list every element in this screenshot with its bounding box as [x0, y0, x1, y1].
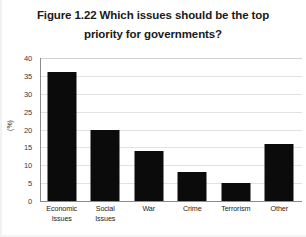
y-axis-tick-labels: 4035302520151050 — [0, 58, 36, 201]
bar-slot — [258, 58, 302, 201]
y-axis-tick-label: 35 — [24, 71, 32, 80]
bar[interactable] — [178, 172, 207, 201]
x-axis-tick-label-line: War — [127, 204, 171, 214]
bar[interactable] — [221, 183, 250, 201]
bar[interactable] — [91, 130, 120, 202]
x-axis-tick-label: Terrorism — [214, 204, 258, 214]
x-axis-tick-labels: EconomicIssuesSocialIssuesWarCrimeTerror… — [40, 204, 301, 234]
bar-slot — [84, 58, 128, 201]
figure-container: Figure 1.22 Which issues should be the t… — [0, 0, 306, 237]
x-axis-tick-label: Other — [258, 204, 302, 214]
x-axis-tick-label-line: Social — [84, 204, 128, 214]
y-axis-tick-label: 40 — [24, 54, 32, 63]
x-axis-tick-label-line: Issues — [40, 214, 84, 224]
x-axis-tick-label-line: Terrorism — [214, 204, 258, 214]
chart-title-line-2: priority for governments? — [0, 25, 306, 44]
y-axis-tick-label: 30 — [24, 89, 32, 98]
y-axis-tick-label: 10 — [24, 161, 32, 170]
x-axis-tick-label: Crime — [171, 204, 215, 214]
x-axis-tick-label: SocialIssues — [84, 204, 128, 223]
x-axis-tick-label-line: Economic — [40, 204, 84, 214]
bar-slot — [40, 58, 84, 201]
y-axis-tick-label: 0 — [28, 197, 32, 206]
x-axis-tick-label-line: Other — [258, 204, 302, 214]
x-axis-tick-label: War — [127, 204, 171, 214]
bar-slot — [127, 58, 171, 201]
x-axis-tick-label-line: Issues — [84, 214, 128, 224]
chart-title-line-1: Figure 1.22 Which issues should be the t… — [0, 6, 306, 25]
bar[interactable] — [134, 151, 163, 201]
bar[interactable] — [47, 72, 76, 201]
x-axis-tick-label: EconomicIssues — [40, 204, 84, 223]
y-axis-tick-label: 5 — [28, 179, 32, 188]
bar-slot — [214, 58, 258, 201]
y-axis-tick-label: 25 — [24, 107, 32, 116]
bar[interactable] — [265, 144, 294, 201]
bar-series — [40, 58, 301, 201]
scan-edge-bottom — [0, 235, 306, 237]
chart-title: Figure 1.22 Which issues should be the t… — [0, 6, 306, 44]
y-axis-tick-label: 15 — [24, 143, 32, 152]
y-axis-tick-label: 20 — [24, 125, 32, 134]
x-axis-tick-label-line: Crime — [171, 204, 215, 214]
bar-slot — [171, 58, 215, 201]
